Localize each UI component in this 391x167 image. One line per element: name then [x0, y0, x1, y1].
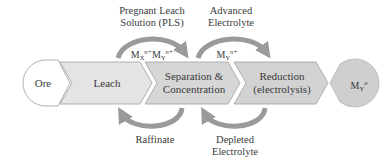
- pls-species-2-sup: n+: [166, 48, 174, 55]
- pls-title-line2: Solution (PLS): [102, 17, 202, 29]
- raffinate-arrow: [122, 108, 182, 126]
- advanced-title-line2: Electrolyte: [196, 17, 266, 29]
- advanced-species-base: M: [216, 49, 225, 60]
- pls-species-1-sup: n+: [144, 48, 152, 55]
- product-label: MYo: [344, 77, 374, 95]
- depleted-title-line2: Electrolyte: [200, 146, 270, 158]
- advanced-species: MYn+: [212, 46, 242, 64]
- advanced-title-line1: Advanced: [196, 5, 266, 17]
- advanced-electrolyte-title: Advanced Electrolyte: [196, 5, 266, 29]
- reduction-label-line2: (electrolysis): [240, 83, 324, 96]
- depleted-title-line1: Depleted: [200, 134, 270, 146]
- product-sup: o: [364, 79, 367, 86]
- pls-title-line1: Pregnant Leach: [102, 5, 202, 17]
- depleted-electrolyte-arrow: [205, 108, 265, 126]
- advanced-species-sup: n+: [230, 48, 238, 55]
- depleted-electrolyte-label: Depleted Electrolyte: [200, 134, 270, 158]
- advanced-species-sub: Y: [225, 54, 230, 61]
- pls-species-2-base: M: [152, 49, 161, 60]
- separation-label-line2: Concentration: [152, 83, 236, 96]
- separation-label: Separation & Concentration: [152, 70, 236, 96]
- pls-species: MXn+MYn+: [116, 46, 188, 64]
- ore-label: Ore: [26, 77, 60, 90]
- pls-species-2-sub: Y: [161, 54, 166, 61]
- reduction-label: Reduction (electrolysis): [240, 70, 324, 96]
- pls-title: Pregnant Leach Solution (PLS): [102, 5, 202, 29]
- raffinate-label: Raffinate: [120, 134, 190, 146]
- reduction-label-line1: Reduction: [240, 70, 324, 83]
- product-sub: Y: [359, 85, 364, 92]
- leach-label: Leach: [72, 77, 142, 90]
- separation-label-line1: Separation &: [152, 70, 236, 83]
- pls-species-1-sub: X: [140, 54, 145, 61]
- pls-species-1-base: M: [131, 49, 140, 60]
